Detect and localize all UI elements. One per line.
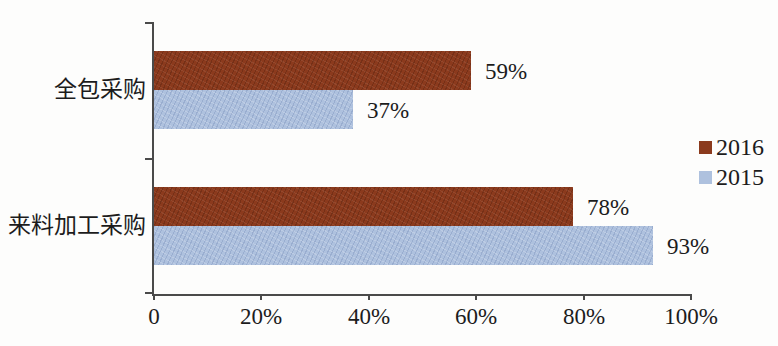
category-label-来料加工采购: 来料加工采购 [0, 213, 146, 238]
category-axis-tick [145, 158, 152, 160]
category-axis-tick [145, 22, 152, 24]
data-label-2015-全包采购: 37% [367, 98, 409, 121]
value-axis-tick-label: 20% [216, 305, 306, 328]
legend-label-2016: 2016 [716, 135, 764, 159]
category-label-全包采购: 全包采购 [0, 77, 146, 102]
data-label-2016-全包采购: 59% [485, 59, 527, 82]
bar-chart: 59%37%78%93% 全包采购来料加工采购 020%40%60%80%100… [0, 0, 778, 346]
value-axis-tick-label: 60% [431, 305, 521, 328]
value-axis-tick [368, 294, 370, 300]
value-axis-tick [260, 294, 262, 300]
category-axis-tick [145, 292, 152, 294]
bar-2016-来料加工采购 [154, 187, 573, 226]
legend-swatch-2016 [699, 141, 712, 154]
bar-2015-全包采购 [154, 90, 353, 129]
data-label-2016-来料加工采购: 78% [587, 195, 629, 218]
value-axis-tick-label: 100% [646, 305, 736, 328]
bar-2015-来料加工采购 [154, 226, 653, 265]
bar-2016-全包采购 [154, 51, 471, 90]
value-axis-tick [583, 294, 585, 300]
value-axis-tick [153, 294, 155, 300]
legend-label-2015: 2015 [716, 165, 764, 189]
value-axis-tick [475, 294, 477, 300]
value-axis-tick-label: 0 [109, 305, 199, 328]
legend-item-2016: 2016 [699, 136, 764, 158]
legend: 20162015 [699, 136, 764, 196]
legend-swatch-2015 [699, 171, 712, 184]
plot-area: 59%37%78%93% [152, 22, 691, 296]
value-axis-tick-label: 80% [539, 305, 629, 328]
data-label-2015-来料加工采购: 93% [667, 234, 709, 257]
value-axis-tick-label: 40% [324, 305, 414, 328]
value-axis-tick [690, 294, 692, 300]
legend-item-2015: 2015 [699, 166, 764, 188]
